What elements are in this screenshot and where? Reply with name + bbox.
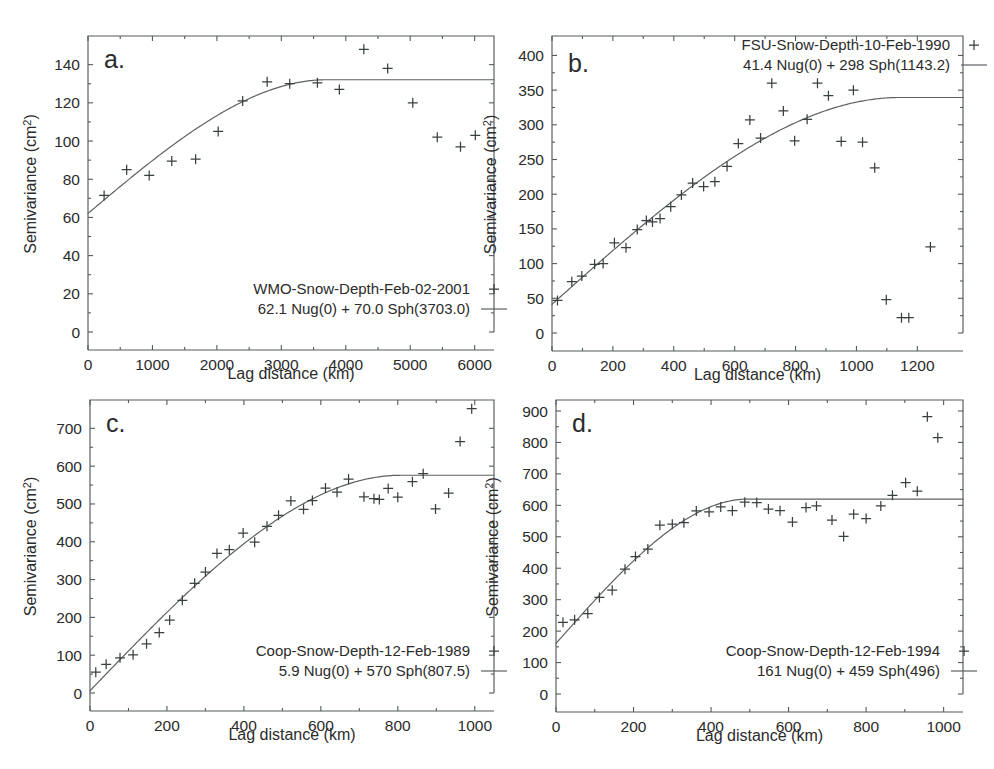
data-point-marker (213, 126, 223, 136)
y-tick-label: 400 (522, 560, 548, 577)
x-tick-label: 0 (84, 356, 93, 373)
legend-model-label: 161 Nug(0) + 459 Sph(496) (757, 662, 940, 679)
panel-b: 0501001502002503003504000200400600800100… (462, 16, 994, 388)
fitted-model-curve (552, 97, 963, 304)
y-tick-label: 140 (54, 56, 80, 73)
legend-plus-marker-icon (969, 40, 979, 50)
panel-c: 010020030040050060070002004006008001000c… (0, 382, 500, 769)
y-tick-label: 20 (63, 285, 81, 302)
y-tick-label: 60 (63, 209, 81, 226)
data-point-marker (431, 504, 441, 514)
y-axis-title: Semivariance (cm2) (481, 115, 499, 254)
data-point-marker (630, 552, 640, 562)
panel-letter-label: d. (572, 409, 593, 437)
x-tick-label: 5000 (393, 356, 428, 373)
data-point-marker (369, 494, 379, 504)
data-point-marker (99, 190, 109, 200)
data-point-marker (861, 514, 871, 524)
y-tick-label: 150 (518, 220, 544, 237)
semivariogram-figure: 0204060801001201400100020003000400050006… (0, 0, 994, 769)
x-tick-label: 1200 (900, 357, 935, 374)
data-point-marker (621, 243, 631, 253)
y-tick-label: 500 (56, 495, 82, 512)
data-point-marker (590, 259, 600, 269)
legend-dataset-label: Coop-Snow-Depth-12-Feb-1989 (256, 642, 470, 659)
y-tick-label: 600 (56, 458, 82, 475)
data-point-marker (688, 178, 698, 188)
data-point-marker (285, 79, 295, 89)
y-tick-label: 0 (73, 685, 82, 702)
y-tick-label: 100 (518, 255, 544, 272)
data-point-marker (91, 667, 101, 677)
y-tick-label: 400 (518, 47, 544, 64)
data-point-marker (756, 133, 766, 143)
panel-d-plot: 0100200300400500600700800900020040060080… (462, 382, 994, 769)
data-point-marker (745, 115, 755, 125)
data-point-marker (165, 615, 175, 625)
data-point-marker (432, 132, 442, 142)
x-axis-title: Lag distance (km) (227, 365, 354, 382)
data-point-marker (876, 501, 886, 511)
panel-b-plot: 0501001502002503003504000200400600800100… (462, 16, 994, 388)
y-tick-label: 700 (56, 420, 82, 437)
legend-dataset-label: Coop-Snow-Depth-12-Feb-1994 (726, 642, 940, 659)
y-tick-label: 80 (63, 171, 81, 188)
data-point-marker (334, 84, 344, 94)
data-point-marker (811, 501, 821, 511)
data-point-marker (836, 136, 846, 146)
data-point-marker (787, 517, 797, 527)
data-point-marker (870, 163, 880, 173)
y-tick-label: 700 (522, 465, 548, 482)
y-axis-title: Semivariance (cm2) (21, 114, 39, 253)
data-point-marker (733, 139, 743, 149)
data-point-marker (775, 506, 785, 516)
x-tick-label: 1000 (135, 356, 170, 373)
data-point-marker (848, 85, 858, 95)
panel-c-plot: 010020030040050060070002004006008001000c… (0, 382, 500, 769)
data-point-marker (212, 548, 222, 558)
y-tick-label: 200 (522, 623, 548, 640)
y-tick-label: 250 (518, 151, 544, 168)
data-point-marker (567, 277, 577, 287)
fitted-model-curve (556, 499, 963, 643)
y-tick-label: 120 (54, 94, 80, 111)
data-point-marker (191, 154, 201, 164)
y-tick-label: 200 (518, 186, 544, 203)
fitted-model-curve (88, 80, 494, 214)
data-point-marker (122, 165, 132, 175)
data-point-marker (128, 650, 138, 660)
data-point-marker (154, 628, 164, 638)
panel-letter-label: b. (568, 49, 589, 77)
data-point-marker (408, 98, 418, 108)
data-point-marker (827, 515, 837, 525)
x-axis-title: Lag distance (km) (694, 366, 821, 383)
data-point-marker (101, 659, 111, 669)
y-axis-title: Semivariance (cm2) (483, 477, 501, 616)
data-point-marker (383, 483, 393, 493)
data-point-marker (823, 91, 833, 101)
data-point-marker (238, 96, 248, 106)
legend-dataset-label: WMO-Snow-Depth-Feb-02-2001 (253, 280, 470, 297)
data-point-marker (904, 313, 914, 323)
x-tick-label: 1000 (839, 357, 874, 374)
data-point-marker (858, 137, 868, 147)
y-tick-label: 0 (539, 686, 548, 703)
data-point-marker (177, 595, 187, 605)
y-axis-title: Semivariance (cm2) (21, 477, 39, 616)
data-point-marker (444, 488, 454, 498)
data-point-marker (359, 44, 369, 54)
data-point-marker (190, 578, 200, 588)
data-point-marker (699, 182, 709, 192)
data-point-marker (359, 492, 369, 502)
data-point-marker (655, 520, 665, 530)
x-tick-label: 0 (548, 357, 557, 374)
data-point-marker (849, 509, 859, 519)
x-tick-label: 800 (853, 718, 879, 735)
data-point-marker (722, 161, 732, 171)
y-tick-label: 40 (63, 247, 81, 264)
data-point-marker (767, 78, 777, 88)
x-tick-label: 1000 (926, 718, 961, 735)
y-tick-label: 100 (56, 647, 82, 664)
x-axis-title: Lag distance (km) (228, 726, 355, 743)
x-tick-label: 800 (385, 717, 411, 734)
